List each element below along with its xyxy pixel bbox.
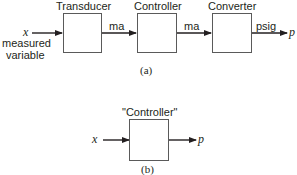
signal-psig: psig [256, 20, 276, 32]
converter-block [212, 13, 252, 53]
converter-label: Converter [208, 0, 256, 12]
controller-b-block [129, 119, 169, 161]
output-symbol-p-b: p [198, 133, 204, 145]
controller-b-label: "Controller" [122, 106, 178, 118]
caption-b: (b) [141, 163, 154, 175]
measured-label: measured [2, 37, 51, 49]
controller-label: Controller [134, 0, 182, 12]
controller-block [137, 13, 177, 53]
signal-ma-2: ma [184, 20, 199, 32]
variable-label: variable [6, 49, 45, 61]
output-symbol-p: p [289, 26, 295, 38]
transducer-label: Transducer [56, 0, 111, 12]
transducer-block [63, 13, 102, 53]
caption-a: (a) [140, 64, 152, 76]
input-symbol-x-b: x [92, 133, 97, 145]
signal-ma-1: ma [109, 20, 124, 32]
